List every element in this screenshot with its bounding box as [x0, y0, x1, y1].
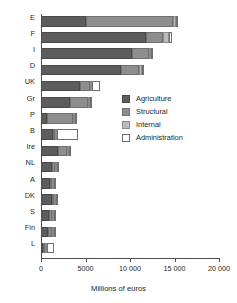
x-tick-mark	[175, 258, 176, 262]
bar-segment-structural	[70, 97, 88, 108]
bar-segment-administration	[142, 65, 144, 76]
bar-segment-agriculture	[41, 65, 121, 76]
stacked-bar-chart: 0500010 00015 00020 000 EFIDUKGrPBIreNLA…	[0, 0, 237, 303]
bar-row	[41, 162, 59, 173]
legend-swatch-agriculture	[122, 95, 130, 103]
bar-segment-administration	[176, 16, 178, 27]
legend-label: Structural	[136, 107, 168, 116]
legend-label: Administration	[136, 133, 183, 142]
bar-segment-administration	[90, 97, 92, 108]
bar-segment-agriculture	[41, 97, 70, 108]
bar-row	[41, 210, 56, 221]
bar-segment-agriculture	[41, 129, 53, 140]
bar-segment-administration	[151, 48, 153, 59]
y-axis-label-a: A	[0, 175, 35, 184]
bar-segment-structural	[47, 113, 73, 124]
bar-segment-agriculture	[41, 48, 132, 59]
y-axis-label-d: D	[0, 61, 35, 70]
y-axis-label-b: B	[0, 126, 35, 135]
legend-label: Agriculture	[136, 94, 171, 103]
bar-segment-administration	[75, 113, 77, 124]
bar-segment-administration	[169, 32, 172, 43]
bar-segment-agriculture	[41, 32, 146, 43]
bar-row	[41, 48, 153, 59]
y-axis-line	[41, 14, 42, 259]
bar-row	[41, 178, 56, 189]
legend-item: Internal	[122, 118, 183, 131]
bar-segment-agriculture	[41, 178, 50, 189]
x-tick-mark	[130, 258, 131, 262]
legend-swatch-administration	[122, 134, 130, 142]
x-tick-label: 10 000	[119, 264, 141, 273]
bar-segment-structural	[58, 146, 67, 157]
bar-segment-agriculture	[41, 146, 58, 157]
y-axis-label-ire: Ire	[0, 142, 35, 151]
x-tick-label: 20 000	[208, 264, 230, 273]
bar-row	[41, 194, 58, 205]
bar-row	[41, 129, 78, 140]
bar-row	[41, 97, 92, 108]
bar-segment-administration	[54, 210, 56, 221]
y-axis-label-dk: DK	[0, 191, 35, 200]
chart-legend: AgricultureStructuralInternalAdministrat…	[122, 92, 183, 144]
x-tick-mark	[219, 258, 220, 262]
y-axis-label-uk: UK	[0, 77, 35, 86]
bar-row	[41, 32, 172, 43]
bar-segment-administration	[54, 227, 56, 238]
legend-item: Agriculture	[122, 92, 183, 105]
bar-segment-administration	[57, 129, 77, 140]
bar-row	[41, 243, 54, 254]
bar-segment-administration	[92, 81, 100, 92]
bar-segment-structural	[132, 48, 149, 59]
legend-item: Structural	[122, 105, 183, 118]
y-axis-label-fin: Fin	[0, 223, 35, 232]
bar-row	[41, 113, 77, 124]
bar-segment-administration	[54, 178, 56, 189]
bar-segment-administration	[47, 243, 54, 254]
y-axis-label-nl: NL	[0, 158, 35, 167]
bar-segment-structural	[86, 16, 173, 27]
bar-row	[41, 227, 56, 238]
y-axis-label-i: I	[0, 45, 35, 54]
bar-segment-agriculture	[41, 162, 52, 173]
x-tick-label: 0	[39, 264, 43, 273]
x-tick-label: 15 000	[164, 264, 186, 273]
legend-swatch-internal	[122, 121, 130, 129]
y-axis-label-p: P	[0, 110, 35, 119]
y-axis-label-e: E	[0, 13, 35, 22]
y-axis-label-gr: Gr	[0, 94, 35, 103]
bar-segment-administration	[57, 162, 59, 173]
x-tick-mark	[41, 258, 42, 262]
bar-segment-agriculture	[41, 81, 80, 92]
bar-row	[41, 81, 100, 92]
x-tick-label: 5000	[78, 264, 94, 273]
bar-segment-administration	[69, 146, 71, 157]
bar-segment-structural	[80, 81, 90, 92]
legend-label: Internal	[136, 120, 161, 129]
y-axis-label-l: L	[0, 239, 35, 248]
bar-segment-structural	[146, 32, 163, 43]
bar-segment-agriculture	[41, 194, 52, 205]
bar-segment-administration	[56, 194, 58, 205]
legend-swatch-structural	[122, 108, 130, 116]
bar-segment-structural	[121, 65, 139, 76]
bar-row	[41, 146, 71, 157]
y-axis-label-f: F	[0, 29, 35, 38]
bar-segment-agriculture	[41, 16, 86, 27]
bar-row	[41, 16, 178, 27]
x-axis-title: Millions of euros	[0, 284, 237, 293]
y-axis-label-s: S	[0, 207, 35, 216]
legend-item: Administration	[122, 131, 183, 144]
bar-row	[41, 65, 144, 76]
bar-segment-agriculture	[41, 227, 48, 238]
bar-segment-agriculture	[41, 210, 49, 221]
x-tick-mark	[86, 258, 87, 262]
